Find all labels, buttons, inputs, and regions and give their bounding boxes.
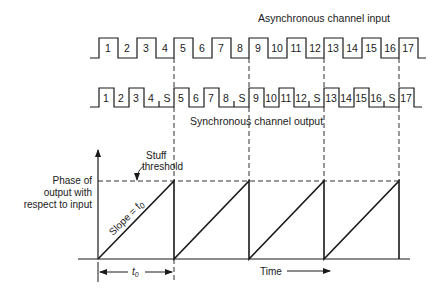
async-slot: 17 — [402, 42, 414, 54]
async-slot: 7 — [218, 42, 224, 54]
y-label: Phase of — [53, 175, 93, 186]
svg-text:Slope = f0: Slope = f0 — [107, 198, 148, 239]
async-slot: 16 — [384, 42, 396, 54]
async-slot: 4 — [162, 42, 168, 54]
async-slot: 11 — [291, 42, 302, 54]
sync-slot: 16 — [370, 92, 382, 104]
phase-plot: Phase of output with respect to input St… — [24, 150, 410, 282]
sync-slot: 5 — [178, 92, 184, 104]
sync-slot: 1 — [103, 92, 109, 104]
sync-slot: 10 — [265, 92, 277, 104]
async-slot: 5 — [180, 42, 186, 54]
async-slot: 6 — [199, 42, 205, 54]
async-slot: 1 — [105, 42, 111, 54]
async-title: Asynchronous channel input — [258, 12, 390, 24]
sync-slot: 8 — [223, 92, 229, 104]
sync-slot: 2 — [118, 92, 124, 104]
async-slot: 3 — [143, 42, 149, 54]
sync-slot: 17 — [400, 92, 412, 104]
threshold-label: threshold — [142, 161, 183, 172]
sync-title: Synchronous channel output — [190, 115, 323, 127]
async-slot: 13 — [327, 42, 339, 54]
async-slot: 14 — [346, 42, 358, 54]
x-label: Time — [260, 266, 282, 277]
async-slot: 9 — [255, 42, 261, 54]
y-label: output with — [44, 187, 92, 198]
async-slot: 15 — [365, 42, 377, 54]
period-label: t0 — [132, 266, 139, 278]
sync-slot: 15 — [355, 92, 367, 104]
threshold-label: Stuff — [146, 150, 167, 161]
stuff-slot: S — [238, 92, 245, 104]
stuff-slot: S — [313, 92, 320, 104]
sync-slot: 6 — [193, 92, 199, 104]
async-slot: 10 — [271, 42, 283, 54]
stuffing-diagram: Asynchronous channel input 1 2 3 4 5 6 7… — [0, 0, 442, 296]
async-slot: 2 — [124, 42, 130, 54]
async-slot: 8 — [237, 42, 243, 54]
sync-slot-labels: 1 2 3 4 S 5 6 7 8 S 9 10 11 12 S 13 14 1… — [103, 92, 412, 104]
phase-sawtooth — [98, 181, 399, 259]
sync-slot: 12 — [295, 92, 307, 104]
sync-slot: 4 — [148, 92, 154, 104]
sync-slot: 11 — [281, 92, 292, 104]
async-slot: 12 — [309, 42, 321, 54]
slope-label: Slope = f0 — [107, 198, 148, 239]
stuff-slot: S — [163, 92, 170, 104]
sync-slot: 9 — [253, 92, 259, 104]
sync-slot: 13 — [325, 92, 337, 104]
sync-slot: 7 — [208, 92, 214, 104]
y-label: respect to input — [24, 199, 93, 210]
sync-slot: 3 — [133, 92, 139, 104]
sync-slot: 14 — [340, 92, 352, 104]
async-slot-labels: 1 2 3 4 5 6 7 8 9 10 11 12 13 14 15 16 1… — [105, 42, 414, 54]
stuff-slot: S — [388, 92, 395, 104]
